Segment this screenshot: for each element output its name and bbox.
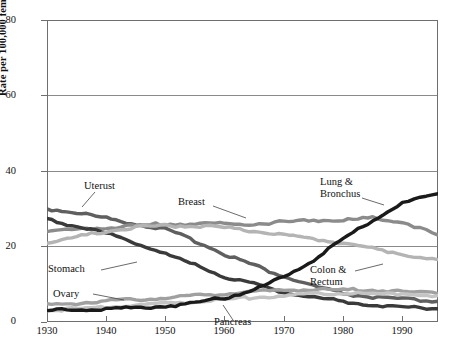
series-label-stomach: Stomach (48, 263, 85, 275)
series-label-uterus: Uterust (84, 180, 115, 192)
x-tick-label-1930: 1930 (24, 326, 70, 337)
series-label-colon-line1: Colon & (310, 264, 346, 276)
y-tick-label-40: 40 (0, 166, 16, 177)
x-tick-mark-1970 (284, 316, 285, 322)
series-label-pancreas: Pancreas (214, 316, 251, 328)
series-label-breast: Breast (178, 196, 205, 208)
y-tick-label-80: 80 (0, 15, 16, 26)
x-tick-label-1950: 1950 (142, 326, 188, 337)
x-tick-label-1990: 1990 (379, 326, 425, 337)
series-label-lung-line1: Lung & (320, 176, 360, 188)
x-tick-label-1940: 1940 (83, 326, 129, 337)
series-label-ovary: Ovary (53, 288, 79, 300)
x-tick-mark-1990 (402, 316, 403, 322)
series-label-lung-line2: Bronchus (320, 188, 360, 200)
series-label-colon: Colon & Rectum (310, 264, 346, 287)
y-tick-label-60: 60 (0, 90, 16, 101)
x-tick-label-1970: 1970 (261, 326, 307, 337)
x-tick-label-1980: 1980 (320, 326, 366, 337)
y-tick-label-0: 0 (0, 316, 16, 327)
x-tick-label-1960: 1960 (201, 326, 247, 337)
series-label-lung: Lung & Bronchus (320, 176, 360, 199)
series-line-uterust (47, 209, 438, 302)
y-tick-mark-0 (41, 322, 47, 323)
x-tick-mark-1930 (47, 316, 48, 322)
y-tick-label-20: 20 (0, 241, 16, 252)
x-tick-mark-1940 (106, 316, 107, 322)
series-label-colon-line2: Rectum (310, 276, 346, 288)
chart-figure: Rate per 100,000 female population 80 60… (0, 0, 457, 352)
x-tick-mark-1950 (165, 316, 166, 322)
x-tick-mark-1980 (343, 316, 344, 322)
series-lines (47, 20, 438, 322)
